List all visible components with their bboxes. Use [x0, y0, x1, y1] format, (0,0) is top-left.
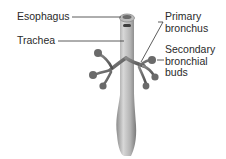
label-secondary-line3: buds: [165, 67, 215, 79]
label-primary-bronchus: Primary bronchus: [165, 11, 208, 34]
label-esophagus: Esophagus: [17, 11, 70, 23]
leader-lines: [58, 17, 164, 62]
label-primary-bronchus-line1: Primary: [165, 11, 208, 23]
label-secondary-line1: Secondary: [165, 44, 215, 56]
label-secondary-bronchial-buds: Secondary bronchial buds: [165, 44, 215, 79]
label-trachea: Trachea: [17, 35, 55, 47]
label-primary-bronchus-line2: bronchus: [165, 23, 208, 35]
